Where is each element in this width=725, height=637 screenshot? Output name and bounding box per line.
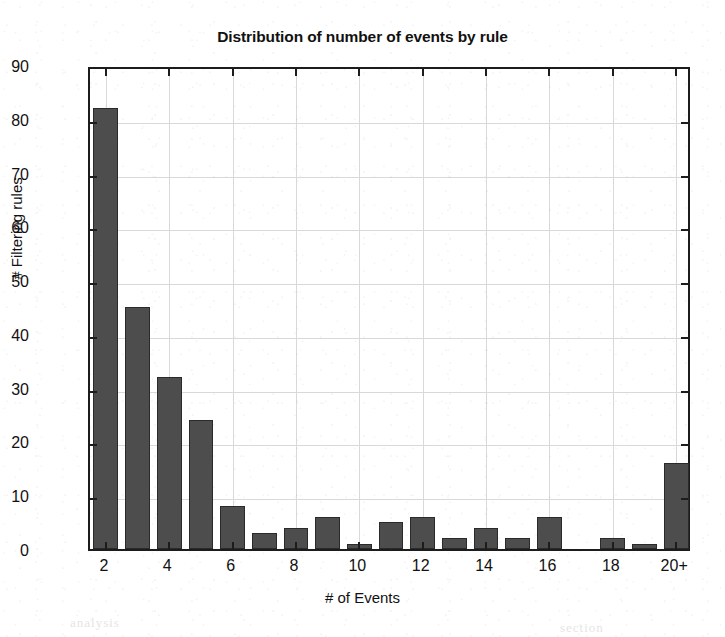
x-axis-tick (295, 542, 297, 549)
x-axis-tick-label: 10 (327, 558, 387, 574)
x-axis-tick-top (548, 69, 550, 76)
x-axis-tick (232, 542, 234, 549)
y-axis-tick-right (681, 498, 688, 500)
y-axis-tick-right (681, 283, 688, 285)
bar-15 (505, 538, 530, 549)
x-axis-tick (548, 542, 550, 549)
bar-20plus (664, 463, 689, 549)
x-axis-tick-label: 16 (517, 558, 577, 574)
x-axis-tick (358, 542, 360, 549)
y-axis-tick-right (681, 337, 688, 339)
y-axis-tick-right (681, 176, 688, 178)
x-axis-tick-label: 12 (391, 558, 451, 574)
bar-5 (189, 420, 214, 549)
y-axis-tick-right (681, 391, 688, 393)
x-axis-tick-top (675, 69, 677, 76)
x-axis-tick-top (358, 69, 360, 76)
bar-4 (157, 377, 182, 549)
y-axis-tick-right (681, 444, 688, 446)
y-axis-tick (90, 391, 97, 393)
bar-13 (442, 538, 467, 549)
bar-3 (125, 307, 150, 549)
y-axis-tick-right (681, 122, 688, 124)
chart-figure: Distribution of number of events by rule… (0, 0, 725, 637)
bars-layer (90, 69, 688, 549)
x-axis-tick-top (105, 69, 107, 76)
y-axis-tick (90, 122, 97, 124)
x-axis-tick (168, 542, 170, 549)
y-axis-tick-label: 20 (0, 435, 29, 451)
bar-19 (632, 544, 657, 549)
x-axis-tick-label: 18 (581, 558, 641, 574)
y-axis-tick-right (681, 229, 688, 231)
bar-7 (252, 533, 277, 549)
x-axis-tick (485, 542, 487, 549)
x-axis-tick-top (168, 69, 170, 76)
y-axis-tick-label: 0 (0, 543, 29, 559)
x-axis-tick (105, 542, 107, 549)
y-axis-tick-label: 30 (0, 382, 29, 398)
y-axis-tick (90, 444, 97, 446)
x-axis-tick-top (612, 69, 614, 76)
x-axis-tick (422, 542, 424, 549)
y-axis-tick (90, 498, 97, 500)
y-axis-tick (90, 283, 97, 285)
bar-9 (315, 517, 340, 549)
x-axis-tick-top (485, 69, 487, 76)
x-axis-tick-top (422, 69, 424, 76)
bar-11 (379, 522, 404, 549)
y-axis-tick (90, 337, 97, 339)
plot-area (88, 67, 690, 551)
x-axis-tick-top (295, 69, 297, 76)
x-axis-tick-label: 20+ (644, 558, 704, 574)
y-axis-tick-label: 90 (0, 59, 29, 75)
x-axis-tick-label: 4 (137, 558, 197, 574)
x-axis-tick-top (232, 69, 234, 76)
chart-title: Distribution of number of events by rule (0, 28, 725, 46)
x-axis-tick-label: 6 (201, 558, 261, 574)
bar-2 (93, 108, 118, 549)
y-axis-tick-label: 10 (0, 489, 29, 505)
x-axis-tick (675, 542, 677, 549)
y-axis-tick (90, 229, 97, 231)
x-axis-tick-label: 8 (264, 558, 324, 574)
y-axis-title: # Filtering rules (8, 99, 25, 359)
x-axis-tick-label: 2 (74, 558, 134, 574)
x-axis-tick (612, 542, 614, 549)
y-axis-tick (90, 176, 97, 178)
x-axis-title: # of Events (0, 589, 725, 606)
x-axis-tick-label: 14 (454, 558, 514, 574)
